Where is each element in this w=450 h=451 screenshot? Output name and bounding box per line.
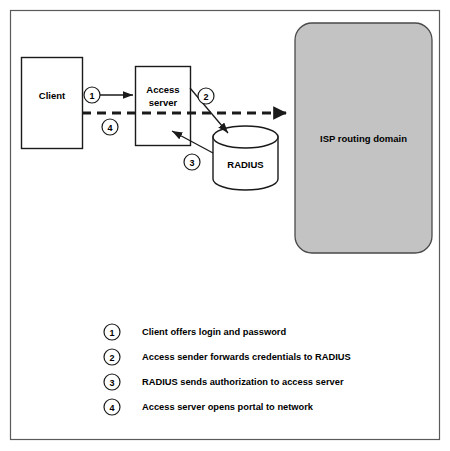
legend-item-4-text: Access server opens portal to network — [142, 402, 314, 412]
radius-flow-diagram: ISP routing domain Client Access server … — [0, 0, 450, 451]
isp-routing-domain-label: ISP routing domain — [320, 133, 407, 144]
legend-marker-2-number: 2 — [109, 353, 114, 363]
legend-item-1-text: Client offers login and password — [142, 327, 286, 337]
client-box — [22, 58, 83, 149]
flow-marker-1-label: 1 — [89, 91, 94, 101]
legend-item-3-text: RADIUS sends authorization to access ser… — [142, 377, 344, 387]
client-label: Client — [39, 90, 66, 101]
flow-marker-4-label: 4 — [107, 123, 112, 133]
figure-container: ISP routing domain Client Access server … — [0, 0, 450, 451]
legend-marker-1-number: 1 — [109, 328, 114, 338]
radius-label: RADIUS — [227, 159, 263, 170]
legend-marker-3-number: 3 — [109, 378, 114, 388]
flow-marker-2-label: 2 — [203, 92, 208, 102]
legend-item-2-text: Access sender forwards credentials to RA… — [142, 352, 351, 362]
access-server-label-line1: Access — [146, 84, 179, 95]
access-server-label-line2: server — [149, 97, 178, 108]
flow-marker-3-label: 3 — [189, 158, 194, 168]
legend-marker-4-number: 4 — [109, 403, 114, 413]
